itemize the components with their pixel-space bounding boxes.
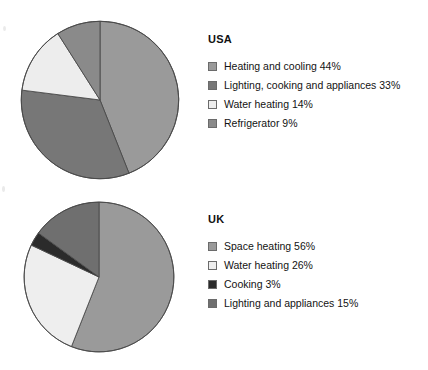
legend-label-water-heating-usa: Water heating 14% [224, 98, 313, 111]
legend-swatch-water-heating-usa [208, 100, 217, 109]
chart-block-uk: UK Space heating 56% Water heating 26% C… [0, 186, 428, 370]
legend-label-refrigerator: Refrigerator 9% [224, 117, 298, 130]
pie-chart-uk [21, 199, 177, 355]
energy-use-pie-figure: USA Heating and cooling 44% Lighting, co… [0, 0, 428, 370]
legend-swatch-refrigerator [208, 119, 217, 128]
pie-chart-uk-svg [21, 199, 177, 355]
legend-usa: USA Heating and cooling 44% Lighting, co… [208, 33, 424, 133]
pie-slices-usa [21, 21, 178, 178]
legend-item-water-heating-uk: Water heating 26% [208, 256, 424, 275]
legend-item-lighting-and-appliances: Lighting and appliances 15% [208, 294, 424, 313]
legend-swatch-lighting-cooking-appliances [208, 81, 217, 90]
legend-swatch-space-heating [208, 242, 217, 251]
legend-label-cooking: Cooking 3% [224, 278, 281, 291]
legend-label-lighting-and-appliances: Lighting and appliances 15% [224, 297, 358, 310]
pie-chart-usa-svg [18, 18, 182, 182]
legend-label-heating-and-cooling: Heating and cooling 44% [224, 60, 341, 73]
legend-item-lighting-cooking-appliances: Lighting, cooking and appliances 33% [208, 76, 424, 95]
legend-swatch-water-heating-uk [208, 261, 217, 270]
legend-item-cooking: Cooking 3% [208, 275, 424, 294]
legend-title-usa: USA [208, 33, 424, 45]
pie-slices-uk [24, 202, 174, 352]
legend-swatch-cooking [208, 280, 217, 289]
pie-chart-usa [18, 18, 182, 182]
legend-uk: UK Space heating 56% Water heating 26% C… [208, 213, 424, 313]
legend-item-water-heating-usa: Water heating 14% [208, 95, 424, 114]
legend-item-heating-and-cooling: Heating and cooling 44% [208, 57, 424, 76]
legend-title-uk: UK [208, 213, 424, 225]
legend-item-space-heating: Space heating 56% [208, 237, 424, 256]
chart-block-usa: USA Heating and cooling 44% Lighting, co… [0, 0, 428, 186]
legend-label-space-heating: Space heating 56% [224, 240, 315, 253]
legend-swatch-lighting-and-appliances [208, 299, 217, 308]
legend-label-lighting-cooking-appliances: Lighting, cooking and appliances 33% [224, 79, 400, 92]
legend-item-refrigerator: Refrigerator 9% [208, 114, 424, 133]
legend-label-water-heating-uk: Water heating 26% [224, 259, 313, 272]
legend-swatch-heating-and-cooling [208, 62, 217, 71]
